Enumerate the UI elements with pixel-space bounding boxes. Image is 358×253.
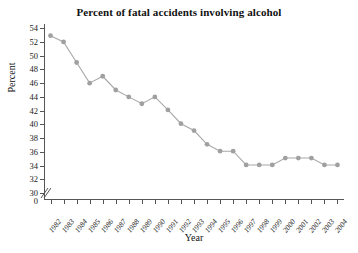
data-point	[309, 156, 314, 161]
data-point	[61, 39, 66, 44]
chart-title: Percent of fatal accidents involving alc…	[0, 6, 358, 18]
plot-area: 030323436384042444648505254	[44, 24, 344, 200]
y-tick-label: 30	[30, 189, 39, 198]
x-tick-mark	[90, 200, 91, 204]
data-point	[100, 74, 105, 79]
data-point	[113, 88, 118, 93]
x-tick-mark	[311, 200, 312, 204]
data-points-group	[48, 33, 340, 167]
x-tick-mark	[116, 200, 117, 204]
x-tick-mark	[207, 200, 208, 204]
y-axis-label: Percent	[6, 43, 17, 113]
x-tick-mark	[103, 200, 104, 204]
data-point	[48, 33, 53, 38]
data-point	[244, 163, 249, 168]
y-tick-label: 44	[30, 93, 39, 102]
data-point	[126, 94, 131, 99]
y-tick-label: 36	[30, 148, 39, 157]
x-tick-mark	[233, 200, 234, 204]
data-point	[152, 94, 157, 99]
y-tick-label: 38	[30, 134, 39, 143]
y-tick-label: 34	[30, 161, 39, 170]
data-point	[283, 156, 288, 161]
data-point	[87, 81, 92, 86]
data-point	[166, 108, 171, 113]
chart-page: Percent of fatal accidents involving alc…	[0, 0, 358, 253]
data-point	[179, 121, 184, 126]
x-tick-mark	[194, 200, 195, 204]
x-tick-mark	[298, 200, 299, 204]
x-tick-mark	[129, 200, 130, 204]
data-point	[322, 163, 327, 168]
data-point	[218, 149, 223, 154]
y-tick-label: 46	[30, 79, 39, 88]
data-point	[205, 142, 210, 147]
y-tick-label: 0	[34, 197, 38, 206]
x-tick-mark	[272, 200, 273, 204]
y-tick-label: 40	[30, 120, 39, 129]
x-tick-mark	[64, 200, 65, 204]
data-point	[296, 156, 301, 161]
x-tick-mark	[259, 200, 260, 204]
data-point	[192, 128, 197, 133]
x-tick-mark	[220, 200, 221, 204]
data-point	[257, 163, 262, 168]
x-tick-mark	[246, 200, 247, 204]
x-axis-label: Year	[44, 232, 344, 243]
y-tick-label: 32	[30, 175, 39, 184]
data-point	[270, 163, 275, 168]
x-tick-mark	[142, 200, 143, 204]
data-point	[74, 60, 79, 65]
y-tick-label: 42	[30, 106, 39, 115]
series-line	[51, 36, 338, 165]
data-point	[139, 101, 144, 106]
x-tick-mark	[155, 200, 156, 204]
series-plot	[44, 24, 344, 200]
y-tick-label: 48	[30, 65, 39, 74]
x-tick-mark	[51, 200, 52, 204]
x-tick-mark	[77, 200, 78, 204]
x-tick-mark	[285, 200, 286, 204]
y-tick-label: 54	[30, 24, 39, 33]
x-tick-mark	[324, 200, 325, 204]
data-point	[335, 163, 340, 168]
y-tick-label: 50	[30, 51, 39, 60]
x-tick-mark	[168, 200, 169, 204]
y-tick-label: 52	[30, 38, 39, 47]
x-tick-mark	[181, 200, 182, 204]
data-point	[231, 149, 236, 154]
x-axis-ticks: 1982198319841985198619871988198919901991…	[44, 200, 344, 252]
x-tick-mark	[337, 200, 338, 204]
